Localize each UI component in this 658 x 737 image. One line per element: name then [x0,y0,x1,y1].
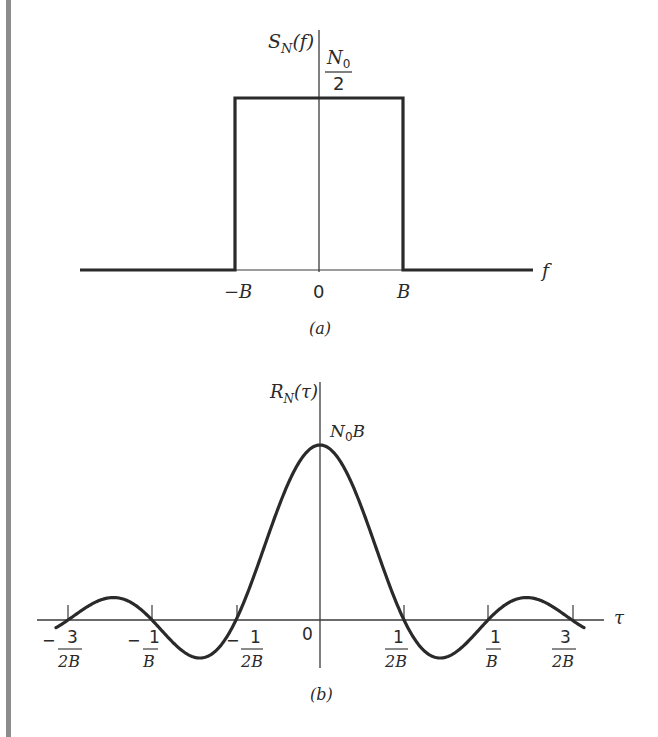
a-y-axis-label: SN(f) [268,30,314,56]
b-tick-label-neg-1-2b: − 1 2B [226,627,263,671]
svg-text:−: − [42,631,55,650]
a-caption: (a) [309,319,331,338]
b-peak-label: N0B [329,421,365,444]
svg-text:2: 2 [333,73,344,94]
a-tick-zero: 0 [313,281,324,302]
b-caption: (b) [310,685,333,704]
svg-text:3: 3 [560,627,571,647]
b-tick-label-neg-3-2b: − 3 2B [42,627,82,671]
b-tick-label-neg-1-b: − 1 B [127,627,160,671]
svg-text:−: − [127,631,140,650]
b-tick-label-zero: 0 [302,624,313,644]
b-x-axis-label: τ [614,607,625,628]
b-tick-label-1-b: 1 B [485,627,501,671]
a-x-axis-label: f [540,259,552,281]
b-y-axis-label: RN(τ) [269,381,318,406]
svg-text:3: 3 [67,627,78,647]
b-tick-label-3-2b: 3 2B [551,627,576,671]
figure-canvas: SN(f) N0 2 −B 0 B f (a) [0,0,658,737]
a-level-label: N0 2 [325,47,352,94]
svg-text:2B: 2B [57,652,80,671]
svg-text:N0: N0 [326,47,350,71]
svg-text:1: 1 [490,627,501,647]
svg-text:2B: 2B [384,652,407,671]
svg-text:B: B [142,652,155,671]
svg-text:−: − [226,631,239,650]
a-tick-pos-b: B [396,281,410,302]
svg-text:B: B [485,652,498,671]
svg-text:1: 1 [149,627,160,647]
a-psd-rect [80,98,533,270]
svg-text:2B: 2B [551,652,574,671]
svg-text:0: 0 [302,624,313,644]
b-tick-label-1-2b: 1 2B [384,627,408,671]
svg-text:1: 1 [250,627,261,647]
a-tick-neg-b: −B [224,281,252,302]
svg-text:1: 1 [393,627,404,647]
figure-a: SN(f) N0 2 −B 0 B f (a) [80,30,552,338]
svg-text:2B: 2B [240,652,263,671]
figure-b: RN(τ) N0B τ − 3 2B − 1 B − 1 2B 0 1 [37,381,625,704]
